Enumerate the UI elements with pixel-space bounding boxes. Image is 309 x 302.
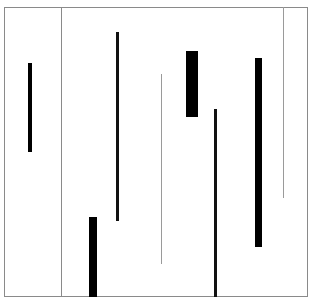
thin-line-center: [161, 74, 162, 264]
bar-2: [116, 32, 119, 221]
divider-right: [283, 7, 284, 198]
bar-6: [255, 58, 262, 247]
bar-1: [28, 63, 32, 152]
frame-border: [4, 7, 308, 297]
divider-left: [61, 7, 62, 297]
bar-4: [186, 51, 198, 117]
bar-5: [214, 109, 217, 297]
bar-3: [89, 217, 97, 297]
